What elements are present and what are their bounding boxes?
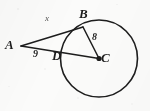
point-label-c: C: [101, 51, 110, 64]
measure-label-8: 8: [92, 32, 97, 42]
measure-label-x: x: [45, 14, 49, 23]
point-label-b: B: [79, 7, 88, 20]
tangent-segment-ab: [21, 27, 83, 46]
point-label-a: A: [5, 38, 14, 51]
measure-label-9: 9: [33, 49, 38, 59]
point-label-d: D: [52, 49, 61, 62]
geometry-figure: A B D C x 8 9: [0, 0, 150, 111]
geometry-canvas: [0, 0, 150, 111]
